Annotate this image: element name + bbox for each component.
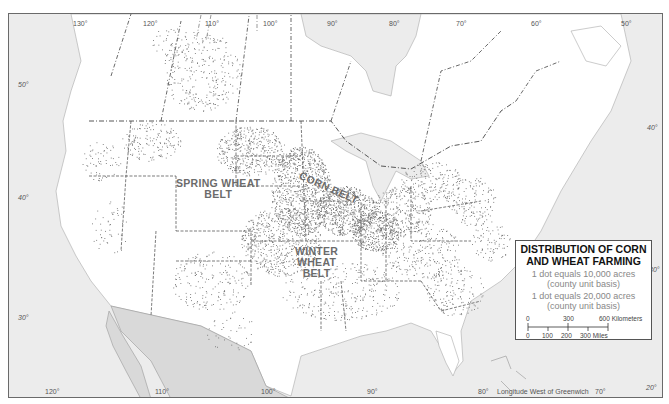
lat-label-bottom-20: 20° bbox=[646, 384, 657, 391]
lat-label-50: 50° bbox=[18, 81, 29, 88]
lon-label-130: 130° bbox=[73, 20, 87, 27]
spring-wheat-belt-label: SPRING WHEAT BELT bbox=[176, 178, 261, 200]
lon-label-bottom-70: 70° bbox=[595, 388, 606, 395]
lon-label-100: 100° bbox=[263, 20, 277, 27]
map-legend: DISTRIBUTION OF CORN AND WHEAT FARMING 1… bbox=[515, 240, 652, 340]
lon-label-60: 60° bbox=[531, 20, 542, 27]
legend-item-2: 1 dot equals 20,000 acres (county unit b… bbox=[520, 292, 647, 311]
lon-label-bottom-90: 90° bbox=[367, 388, 378, 395]
lon-label-80: 80° bbox=[389, 20, 400, 27]
legend-title-line2: AND WHEAT FARMING bbox=[520, 256, 647, 268]
map-frame: 130° 120° 110° 100° 90° 80° 70° 60° 50° … bbox=[8, 13, 663, 398]
legend-item-1: 1 dot equals 10,000 acres (county unit b… bbox=[520, 270, 647, 289]
longitude-caption: Longitude West of Greenwich bbox=[497, 388, 589, 395]
lat-label-40: 40° bbox=[18, 194, 29, 201]
scale-bar-line bbox=[520, 322, 650, 332]
winter-wheat-belt-label: WINTER WHEAT BELT bbox=[295, 246, 338, 279]
lon-label-110: 110° bbox=[205, 20, 219, 27]
lon-label-50: 50° bbox=[621, 20, 632, 27]
lat-label-right-40: 40° bbox=[647, 124, 658, 131]
lon-label-90: 90° bbox=[327, 20, 338, 27]
scale-bar: 0 300 600 Kilometers 0 100 200 300 Miles bbox=[520, 315, 647, 341]
lon-label-bottom-110: 110° bbox=[155, 388, 169, 395]
lon-label-bottom-100: 100° bbox=[261, 388, 275, 395]
legend-title-line1: DISTRIBUTION OF CORN bbox=[520, 244, 647, 256]
lat-label-30: 30° bbox=[18, 314, 29, 321]
lon-label-bottom-80: 80° bbox=[478, 388, 489, 395]
lon-label-70: 70° bbox=[456, 20, 467, 27]
lon-label-bottom-120: 120° bbox=[45, 388, 59, 395]
lon-label-120: 120° bbox=[143, 20, 157, 27]
caribbean-islands bbox=[491, 356, 526, 391]
